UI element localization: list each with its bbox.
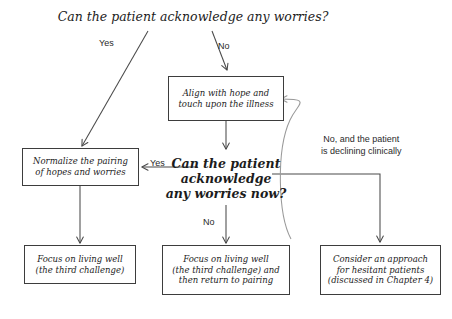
edge-label-top-no: No	[218, 41, 230, 53]
edge-label-declining-clinically: No, and the patient is declining clinica…	[321, 134, 402, 157]
diagram-title: Can the patient acknowledge any worries?	[48, 8, 338, 26]
node-consider-approach: Consider an approach for hesitant patien…	[320, 245, 441, 295]
node-focus-living-well: Focus on living well (the third challeng…	[24, 245, 136, 284]
edge-label-top-yes: Yes	[99, 38, 114, 50]
edge-label-decision-no: No	[203, 217, 215, 229]
node-align-with-hope: Align with hope and touch upon the illne…	[168, 76, 284, 121]
node-decision-acknowledge-now: Can the patient acknowledge any worries …	[155, 152, 297, 204]
flowchart-diagram: Can the patient acknowledge any worries?…	[0, 0, 452, 319]
edge-label-decision-yes: Yes	[150, 158, 165, 170]
node-focus-living-well-return: Focus on living well (the third challeng…	[162, 245, 290, 295]
edge-top-yes	[82, 31, 148, 146]
node-normalize-pairing: Normalize the pairing of hopes and worri…	[22, 148, 139, 186]
